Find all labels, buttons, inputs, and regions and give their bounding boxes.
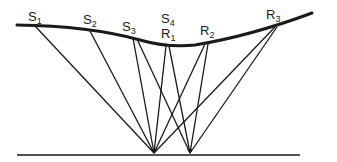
- seismic-ray-diagram: S1S2S3S4R1R2R3: [0, 0, 337, 162]
- ray-path-s3: [133, 38, 154, 153]
- label-r1: R1: [161, 26, 175, 43]
- label-s1: S1: [28, 9, 42, 26]
- ray-path-s1: [35, 26, 154, 153]
- label-r3: R3: [266, 7, 280, 24]
- ray-path-r3: [190, 27, 277, 153]
- label-r2: R2: [200, 23, 214, 40]
- label-s2: S2: [83, 12, 97, 29]
- ray-path-r2: [154, 44, 205, 153]
- reflection-point-b: [187, 149, 193, 154]
- ray-path-r1: [154, 46, 166, 153]
- ray-path-r2: [190, 44, 208, 153]
- label-s3: S3: [122, 19, 136, 36]
- station-labels: S1S2S3S4R1R2R3: [28, 7, 280, 43]
- ray-path-s2: [90, 31, 154, 153]
